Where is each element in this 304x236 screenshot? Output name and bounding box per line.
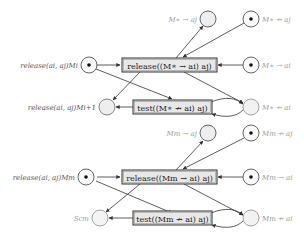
- token-icon: [87, 63, 91, 67]
- svg-text:M∗ → aj: M∗ → aj: [167, 16, 197, 24]
- svg-text:test((M∗ ↛ ai) aj): test((M∗ ↛ ai) aj): [137, 104, 207, 113]
- place-release-mi: release(ai, aj)Mi: [20, 57, 97, 73]
- svg-text:release((Mm → ai) aj): release((Mm → ai) aj): [126, 174, 213, 183]
- place-m-nto-aj: M∗ ↛ aj: [243, 11, 291, 27]
- arc: [96, 181, 172, 213]
- svg-text:Mm ↛ ai: Mm ↛ ai: [261, 215, 293, 223]
- svg-text:release(ai, aj)Mm: release(ai, aj)Mm: [13, 174, 76, 182]
- svg-text:Mm → aj: Mm → aj: [166, 130, 198, 138]
- place-mm-to-aj: Mm → aj: [166, 125, 216, 141]
- bottom-block: Mm → aj Mm ↛ aj release(ai, aj)Mm Mm → a…: [13, 125, 294, 227]
- transition-test: test((M∗ ↛ ai) aj): [133, 100, 212, 114]
- svg-text:release(ai, aj)Mi+1: release(ai, aj)Mi+1: [28, 104, 96, 112]
- token-icon: [249, 63, 253, 67]
- svg-text:Mm ↛ aj: Mm ↛ aj: [261, 130, 293, 138]
- arc: [211, 209, 243, 215]
- transition-release-mm: release((Mm → ai) aj): [122, 170, 217, 184]
- transition-test-mm: test((Mm ↛ ai) aj): [133, 211, 212, 225]
- place-mm-to-ai: Mm → ai: [243, 169, 293, 185]
- svg-text:M∗ ↛ aj: M∗ ↛ aj: [261, 16, 291, 24]
- svg-text:release(ai, aj)Mi: release(ai, aj)Mi: [20, 62, 78, 70]
- place-mm-nto-ai: Mm ↛ ai: [243, 210, 293, 226]
- arc: [184, 72, 243, 103]
- arc: [106, 184, 140, 212]
- svg-text:M∗ → ai: M∗ → ai: [261, 62, 291, 70]
- token-icon: [249, 17, 253, 21]
- transition-release: release((M∗ → ai) aj): [122, 58, 217, 72]
- arc: [96, 69, 172, 99]
- arc: [212, 221, 243, 227]
- token-icon: [84, 175, 88, 179]
- place-release-mm: release(ai, aj)Mm: [13, 169, 94, 185]
- arc: [211, 98, 243, 104]
- place-release-mi1: release(ai, aj)Mi+1: [28, 99, 115, 115]
- svg-text:test((Mm ↛ ai) aj): test((Mm ↛ ai) aj): [136, 215, 208, 224]
- svg-text:M∗ ↛ ai: M∗ ↛ ai: [261, 104, 291, 112]
- arc: [113, 72, 140, 100]
- place-scm: Scm: [74, 210, 108, 226]
- arc: [183, 138, 244, 169]
- token-icon: [249, 131, 253, 135]
- svg-text:release((M∗ → ai) aj): release((M∗ → ai) aj): [127, 62, 211, 71]
- petri-net-diagram: M∗ → aj M∗ ↛ aj release(ai, aj)Mi M∗ → a…: [0, 0, 304, 236]
- top-block: M∗ → aj M∗ ↛ aj release(ai, aj)Mi M∗ → a…: [20, 11, 291, 116]
- svg-text:Mm → ai: Mm → ai: [261, 174, 293, 182]
- arc: [212, 110, 243, 116]
- place-m-nto-ai: M∗ ↛ ai: [243, 99, 291, 115]
- place-m-to-ai: M∗ → ai: [243, 57, 291, 73]
- token-icon: [249, 175, 253, 179]
- arc: [183, 23, 244, 57]
- place-m-to-aj: M∗ → aj: [167, 11, 216, 27]
- svg-text:Scm: Scm: [74, 215, 90, 223]
- place-mm-nto-aj: Mm ↛ aj: [243, 125, 293, 141]
